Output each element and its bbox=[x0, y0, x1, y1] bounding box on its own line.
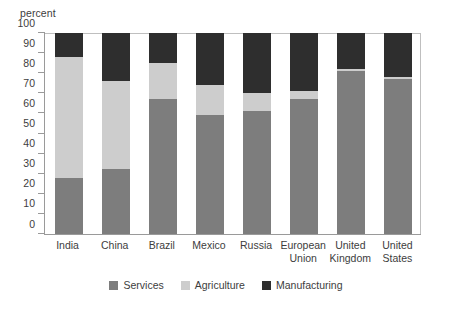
bar-segment-agriculture[interactable] bbox=[243, 93, 271, 111]
stacked-bar[interactable] bbox=[243, 33, 271, 234]
bar-slot bbox=[233, 33, 280, 234]
x-axis-label: Russia bbox=[233, 239, 280, 265]
y-axis-tick-label: 30 bbox=[23, 158, 35, 169]
y-axis-tick-label: 0 bbox=[29, 218, 35, 229]
bar-segment-manufacturing[interactable] bbox=[337, 33, 365, 69]
y-axis-tick-label: 10 bbox=[23, 198, 35, 209]
bar-slot bbox=[374, 33, 421, 234]
y-axis-tick-label: 100 bbox=[17, 17, 35, 28]
y-axis-tick-label: 70 bbox=[23, 78, 35, 89]
legend-item[interactable]: Manufacturing bbox=[262, 280, 343, 291]
y-axis-tick bbox=[38, 193, 45, 194]
stacked-bar[interactable] bbox=[337, 33, 365, 234]
y-axis-tick bbox=[38, 52, 45, 53]
stacked-bar[interactable] bbox=[102, 33, 130, 234]
y-axis-tick bbox=[38, 233, 45, 234]
bar-segment-manufacturing[interactable] bbox=[196, 33, 224, 85]
bar-segment-manufacturing[interactable] bbox=[290, 33, 318, 91]
bar-segment-manufacturing[interactable] bbox=[149, 33, 177, 63]
stacked-bar[interactable] bbox=[55, 33, 83, 234]
stacked-bar[interactable] bbox=[149, 33, 177, 234]
bar-segment-agriculture[interactable] bbox=[290, 91, 318, 99]
bar-slot bbox=[92, 33, 139, 234]
x-axis-label: India bbox=[44, 239, 91, 265]
y-axis-tick-label: 80 bbox=[23, 57, 35, 68]
stacked-bar[interactable] bbox=[196, 33, 224, 234]
x-axis-label: United States bbox=[374, 239, 421, 265]
x-axis-label: United Kingdom bbox=[327, 239, 374, 265]
bar-slot bbox=[280, 33, 327, 234]
bar-slot bbox=[327, 33, 374, 234]
legend-item[interactable]: Agriculture bbox=[181, 280, 245, 291]
y-axis-tick bbox=[38, 32, 45, 33]
x-axis-labels: IndiaChinaBrazilMexicoRussiaEuropean Uni… bbox=[44, 239, 421, 265]
y-axis-tick-label: 40 bbox=[23, 138, 35, 149]
bar-segment-manufacturing[interactable] bbox=[55, 33, 83, 57]
bar-segment-agriculture[interactable] bbox=[149, 63, 177, 99]
legend-label: Agriculture bbox=[195, 280, 245, 291]
bar-segment-manufacturing[interactable] bbox=[243, 33, 271, 93]
bar-segment-services[interactable] bbox=[149, 99, 177, 234]
legend-item[interactable]: Services bbox=[109, 280, 163, 291]
bar-segment-services[interactable] bbox=[196, 115, 224, 234]
bar-segment-manufacturing[interactable] bbox=[384, 33, 412, 77]
bar-segment-services[interactable] bbox=[55, 178, 83, 234]
stacked-bar[interactable] bbox=[384, 33, 412, 234]
bar-slot bbox=[45, 33, 92, 234]
x-axis-label: China bbox=[91, 239, 138, 265]
bar-segment-agriculture[interactable] bbox=[196, 85, 224, 115]
y-axis-tick-label: 90 bbox=[23, 37, 35, 48]
y-axis-tick bbox=[38, 173, 45, 174]
y-axis-tick-label: 60 bbox=[23, 98, 35, 109]
legend-swatch-icon bbox=[181, 281, 190, 290]
y-axis-tick bbox=[38, 213, 45, 214]
bar-segment-services[interactable] bbox=[102, 169, 130, 234]
stacked-bar[interactable] bbox=[290, 33, 318, 234]
bar-segment-services[interactable] bbox=[243, 111, 271, 234]
bar-segment-services[interactable] bbox=[290, 99, 318, 234]
bar-segment-manufacturing[interactable] bbox=[102, 33, 130, 81]
y-axis-tick bbox=[38, 112, 45, 113]
legend-swatch-icon bbox=[109, 281, 118, 290]
y-axis-tick bbox=[38, 92, 45, 93]
bar-segment-agriculture[interactable] bbox=[55, 57, 83, 178]
x-axis-label: Brazil bbox=[138, 239, 185, 265]
y-axis-tick bbox=[38, 133, 45, 134]
y-axis-tick-label: 50 bbox=[23, 118, 35, 129]
bar-segment-services[interactable] bbox=[384, 79, 412, 234]
bar-segment-services[interactable] bbox=[337, 71, 365, 234]
y-axis-tick bbox=[38, 153, 45, 154]
plot-area: 0102030405060708090100 bbox=[44, 33, 421, 235]
bar-slot bbox=[186, 33, 233, 234]
y-axis-tick-label: 20 bbox=[23, 178, 35, 189]
bar-segment-agriculture[interactable] bbox=[102, 81, 130, 168]
legend-swatch-icon bbox=[262, 281, 271, 290]
x-axis-label: European Union bbox=[280, 239, 327, 265]
legend: ServicesAgricultureManufacturing bbox=[0, 280, 452, 291]
bar-slot bbox=[139, 33, 186, 234]
legend-label: Manufacturing bbox=[276, 280, 343, 291]
x-axis-label: Mexico bbox=[185, 239, 232, 265]
legend-label: Services bbox=[123, 280, 163, 291]
y-axis-tick bbox=[38, 72, 45, 73]
bar-group bbox=[45, 33, 421, 234]
